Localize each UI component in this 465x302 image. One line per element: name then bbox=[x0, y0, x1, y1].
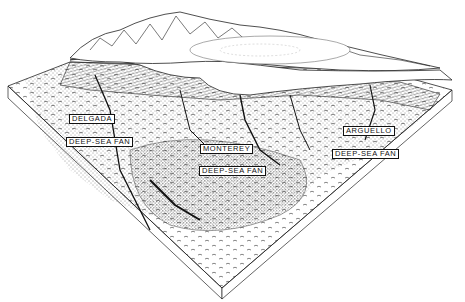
label-arguello-deep-sea-fan: DEEP-SEA FAN bbox=[332, 149, 399, 159]
label-arguello: ARGUELLO bbox=[343, 126, 395, 136]
label-monterey: MONTEREY bbox=[200, 144, 253, 154]
label-monterey-deep-sea-fan: DEEP-SEA FAN bbox=[199, 166, 266, 176]
label-delgada-deep-sea-fan: DEEP-SEA FAN bbox=[66, 137, 133, 147]
label-delgada: DELGADA bbox=[69, 114, 115, 124]
coastal-mountains bbox=[70, 12, 440, 71]
